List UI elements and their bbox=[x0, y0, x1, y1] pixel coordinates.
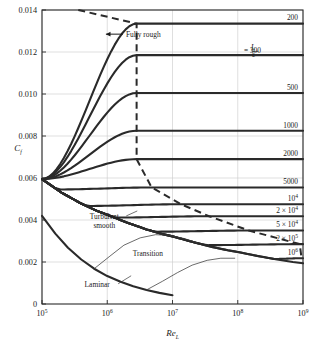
transition-arc-lower bbox=[147, 258, 235, 290]
x-tick-label: 106 bbox=[102, 308, 113, 318]
fully-rough-arrowhead bbox=[106, 32, 111, 37]
x-axis-title: ReL bbox=[165, 328, 179, 340]
annotation-turbulent-smooth: Turbulentsmooth bbox=[90, 212, 120, 230]
roughness-labels: 200Lε= 3005001000200050001042 × 1045 × 1… bbox=[244, 13, 298, 257]
roughness-label: 5 × 104 bbox=[276, 219, 298, 229]
y-tick-label: 0.012 bbox=[19, 48, 37, 57]
roughness-label: 1000 bbox=[283, 121, 298, 130]
annotation-fully-rough: Fully rough bbox=[126, 30, 161, 39]
y-tick-label: 0.006 bbox=[19, 174, 37, 183]
roughness-label: 2 × 105 bbox=[276, 233, 298, 243]
annotation-transition: Transition bbox=[133, 249, 163, 258]
roughness-label: 200 bbox=[287, 13, 298, 22]
x-tick-label: 107 bbox=[167, 308, 178, 318]
x-tick-label: 105 bbox=[37, 308, 48, 318]
y-tick-label: 0.014 bbox=[19, 6, 37, 15]
y-tick-label: 0.010 bbox=[19, 90, 37, 99]
chart-canvas: 00.0020.0040.0060.0080.0100.0120.014 105… bbox=[0, 0, 312, 342]
skin-friction-chart: 00.0020.0040.0060.0080.0100.0120.014 105… bbox=[0, 0, 312, 342]
roughness-label: 2000 bbox=[283, 149, 298, 158]
y-tick-label: 0 bbox=[33, 300, 37, 309]
transition-arcs bbox=[94, 235, 235, 290]
roughness-label-fraction: Lε= 300 bbox=[244, 43, 261, 60]
x-tick-label: 108 bbox=[232, 308, 243, 318]
roughness-label: 500 bbox=[287, 83, 298, 92]
roughness-label: 5000 bbox=[283, 177, 298, 186]
roughness-label: 104 bbox=[288, 193, 298, 203]
roughness-label: 2 × 104 bbox=[276, 205, 298, 215]
x-axis-ticks: 105106107108109 bbox=[37, 300, 309, 318]
svg-text:= 300: = 300 bbox=[244, 46, 261, 55]
turbulent-smooth-leader bbox=[126, 211, 137, 216]
roughness-label: 106 bbox=[288, 247, 298, 257]
y-axis-title: Cf bbox=[14, 143, 23, 155]
x-tick-label: 109 bbox=[298, 308, 309, 318]
annotation-laminar: Laminar bbox=[85, 280, 111, 289]
y-tick-label: 0.004 bbox=[19, 216, 37, 225]
y-tick-label: 0.008 bbox=[19, 132, 37, 141]
y-tick-label: 0.002 bbox=[19, 258, 37, 267]
